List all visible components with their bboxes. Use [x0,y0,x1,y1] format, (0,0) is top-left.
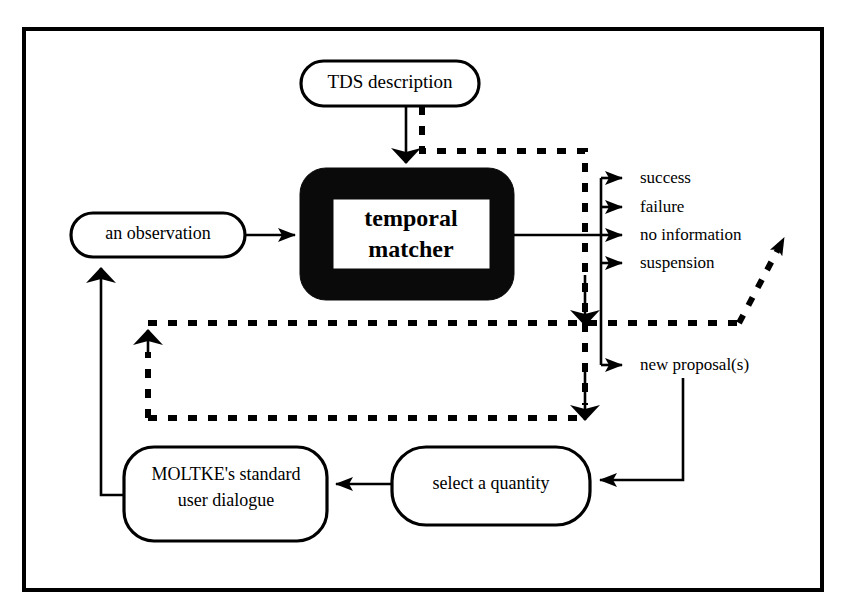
output-branch-suspension: suspension [601,253,715,272]
node-tds-description[interactable]: TDS description [301,61,479,106]
output-label-failure: failure [640,197,684,216]
tds-description-label: TDS description [327,71,453,92]
temporal-matcher-label-line1: temporal [364,205,458,231]
output-label-no-information: no information [640,225,742,244]
node-moltke-dialogue[interactable]: MOLTKE's standard user dialogue [124,447,327,541]
output-label-new-proposals: new proposal(s) [640,355,749,374]
output-branch-new-proposals: new proposal(s) [601,355,749,374]
output-branch-success: success [601,168,691,187]
diagram-svg: TDS description temporal matcher an obse… [0,0,845,613]
temporal-matcher-label-line2: matcher [368,236,454,262]
edge-dashed-diagonal-exit [739,238,784,323]
output-label-suspension: suspension [640,253,715,272]
figure-canvas: TDS description temporal matcher an obse… [0,0,845,613]
edge-moltke-to-observation [101,268,124,495]
output-branch-no-information: no information [601,225,742,244]
select-quantity-label: select a quantity [433,473,550,493]
an-observation-label: an observation [105,223,210,243]
edge-new-proposals-to-select-quantity [600,378,683,480]
moltke-dialogue-label-line2: user dialogue [178,490,274,510]
node-temporal-matcher[interactable]: temporal matcher [300,168,514,300]
node-an-observation[interactable]: an observation [71,213,245,257]
node-select-quantity[interactable]: select a quantity [392,447,590,525]
output-label-success: success [640,168,691,187]
moltke-dialogue-label-line1: MOLTKE's standard [151,464,300,484]
output-branch-failure: failure [601,197,684,216]
